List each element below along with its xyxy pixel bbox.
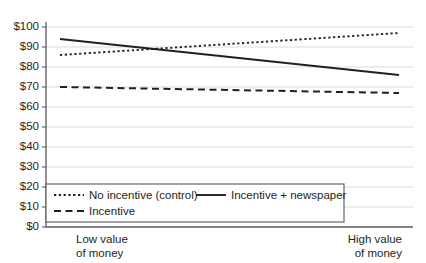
legend: No incentive (control) Incentive + newsp… xyxy=(46,184,347,222)
ytick-label-10: $10 xyxy=(20,200,39,212)
legend-label-incentive-newspaper: Incentive + newspaper xyxy=(231,189,347,201)
line-chart: $100 $90 $80 $70 $60 $50 $40 $30 $20 $10… xyxy=(0,0,426,263)
legend-label-no-incentive-control: No incentive (control) xyxy=(89,189,198,201)
ytick-label-60: $60 xyxy=(20,100,39,112)
ytick-label-90: $90 xyxy=(20,40,39,52)
x-axis-labels: Low value of money High value of money xyxy=(76,233,402,259)
series-group xyxy=(60,33,399,93)
xlabel-high-line2: of money xyxy=(355,247,403,259)
xlabel-low-line2: of money xyxy=(76,247,124,259)
ytick-label-100: $100 xyxy=(13,20,39,32)
ytick-label-0: $0 xyxy=(26,220,39,232)
ytick-label-40: $40 xyxy=(20,140,39,152)
ytick-label-20: $20 xyxy=(20,180,39,192)
ytick-label-30: $30 xyxy=(20,160,39,172)
ytick-label-70: $70 xyxy=(20,80,39,92)
chart-canvas: $100 $90 $80 $70 $60 $50 $40 $30 $20 $10… xyxy=(0,0,426,263)
legend-label-incentive: Incentive xyxy=(89,205,135,217)
xlabel-low-line1: Low value xyxy=(76,233,128,245)
xlabel-high-line1: High value xyxy=(348,233,402,245)
ytick-label-50: $50 xyxy=(20,120,39,132)
y-axis-tick-labels: $100 $90 $80 $70 $60 $50 $40 $30 $20 $10… xyxy=(13,20,39,232)
gridlines xyxy=(46,27,413,207)
series-line-incentive xyxy=(60,87,399,93)
ytick-label-80: $80 xyxy=(20,60,39,72)
